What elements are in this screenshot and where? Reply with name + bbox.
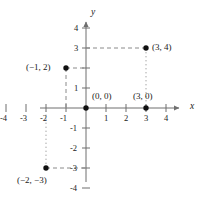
x-axis-label: x <box>190 102 194 112</box>
x-tick-label-minus3: -3 <box>20 114 27 123</box>
data-point-3-4[interactable] <box>143 45 148 50</box>
x-tick-label-minus1: -1 <box>60 114 67 123</box>
data-point-0-0[interactable] <box>83 105 88 110</box>
y-axis-label: y <box>91 8 95 18</box>
point-label-n1-2: (−1, 2) <box>26 63 51 72</box>
point-label-3-4: (3, 4) <box>152 43 172 52</box>
data-point-3-0[interactable] <box>143 105 148 110</box>
x-tick-label-1: 1 <box>104 114 108 123</box>
y-tick-label-1: 1 <box>74 84 78 93</box>
x-tick-label-2: 2 <box>124 114 128 123</box>
x-tick-label-minus4: -4 <box>0 114 7 123</box>
y-tick-label-minus2: -2 <box>70 144 77 153</box>
y-tick-label-minus4: -4 <box>70 184 77 193</box>
point-label-0-0: (0, 0) <box>92 92 112 101</box>
y-tick-label-4: 4 <box>74 24 78 33</box>
data-point-n2-n3[interactable] <box>43 165 48 170</box>
x-tick-label-4: 4 <box>164 114 168 123</box>
y-tick-label-3: 3 <box>74 44 78 53</box>
point-label-n2-n3: (−2, −3) <box>17 176 47 185</box>
x-tick-label-minus2: -2 <box>40 114 47 123</box>
data-point-n1-2[interactable] <box>63 65 68 70</box>
point-label-3-0: (3, 0) <box>133 92 153 101</box>
x-tick-label-3: 3 <box>144 114 148 123</box>
coordinate-plane-figure: x y -4 -3 -2 -1 1 2 3 4 4 3 1 -1 -2 -3 -… <box>0 0 206 200</box>
y-tick-label-minus1: -1 <box>70 124 77 133</box>
y-tick-label-minus3: -3 <box>70 164 77 173</box>
